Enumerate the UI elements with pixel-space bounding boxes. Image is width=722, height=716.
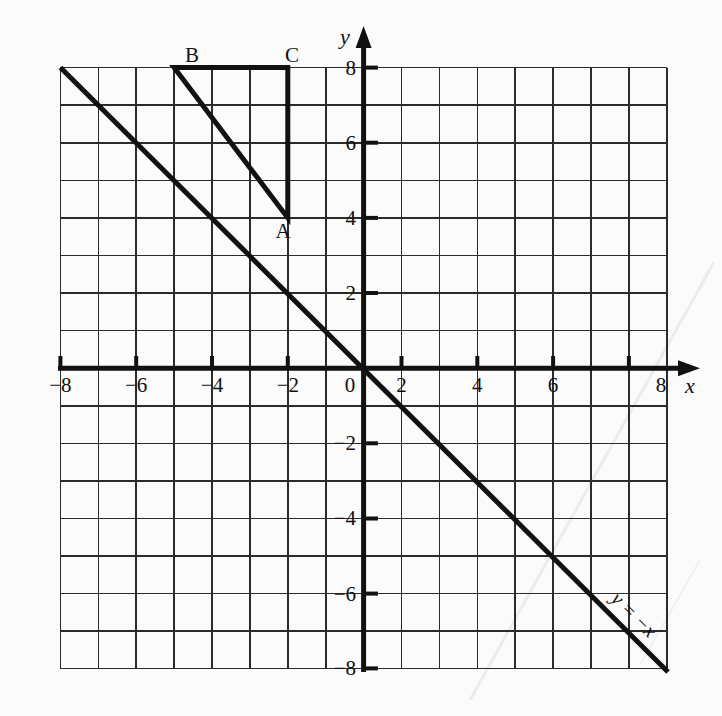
x-tick-label-neg-8: −8 (49, 373, 71, 397)
origin-label: 0 (345, 373, 356, 397)
y-tick-label-neg-8: −8 (334, 656, 356, 680)
coordinate-plane-figure: −8 −6 −4 −2 0 2 4 6 8 8 6 4 2 −2 −4 −6 −… (0, 0, 722, 716)
x-tick-label-2: 2 (396, 373, 407, 397)
y-axis-arrowhead (356, 26, 372, 48)
y-tick-label-neg-6: −6 (334, 582, 356, 606)
vertex-label-b: B (185, 43, 199, 67)
y-tick-label-neg-4: −4 (334, 506, 357, 530)
vertex-label-a: A (275, 219, 291, 243)
x-tick-label-6: 6 (548, 373, 559, 397)
y-tick-label-4: 4 (346, 206, 357, 230)
x-tick-label-neg-4: −4 (201, 373, 224, 397)
x-axis-name-label: x (684, 373, 695, 398)
x-tick-label-8: 8 (656, 373, 667, 397)
y-tick-label-neg-2: −2 (334, 431, 356, 455)
x-tick-label-4: 4 (472, 373, 483, 397)
y-tick-label-8: 8 (346, 56, 357, 80)
axes-group (58, 26, 700, 672)
vertex-label-c: C (285, 43, 299, 67)
x-tick-label-neg-6: −6 (125, 373, 147, 397)
graph-canvas: −8 −6 −4 −2 0 2 4 6 8 8 6 4 2 −2 −4 −6 −… (0, 0, 722, 716)
y-tick-label-2: 2 (346, 281, 357, 305)
y-tick-label-6: 6 (346, 131, 357, 155)
y-axis-name-label: y (338, 24, 350, 49)
x-tick-label-neg-2: −2 (277, 373, 299, 397)
